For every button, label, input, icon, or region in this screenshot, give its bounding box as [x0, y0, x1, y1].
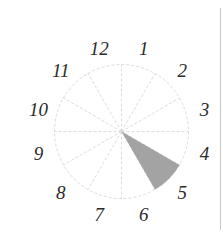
clock-label-12: 12 — [90, 38, 110, 59]
sector-wedge-5 — [122, 132, 180, 190]
wedge-layer — [122, 132, 180, 190]
clock-label-5: 5 — [178, 182, 188, 203]
grid-spoke — [88, 73, 122, 131]
clock-label-7: 7 — [94, 204, 105, 225]
clock-label-8: 8 — [56, 182, 66, 203]
chart-canvas: 121234567891011 — [0, 0, 223, 243]
polar-clock-chart: 121234567891011 — [0, 0, 223, 243]
clock-label-3: 3 — [199, 99, 210, 120]
grid-spoke — [122, 73, 156, 131]
grid-spoke — [122, 98, 180, 132]
clock-label-2: 2 — [178, 60, 188, 81]
grid-spoke — [63, 98, 121, 132]
clock-label-10: 10 — [29, 99, 49, 120]
panel-divider — [220, 8, 221, 230]
clock-label-6: 6 — [139, 204, 149, 225]
grid-spoke — [88, 132, 122, 190]
clock-label-9: 9 — [34, 143, 44, 164]
clock-label-1: 1 — [139, 38, 149, 59]
grid-spoke — [63, 132, 121, 166]
clock-label-4: 4 — [200, 143, 210, 164]
clock-label-11: 11 — [52, 60, 70, 81]
